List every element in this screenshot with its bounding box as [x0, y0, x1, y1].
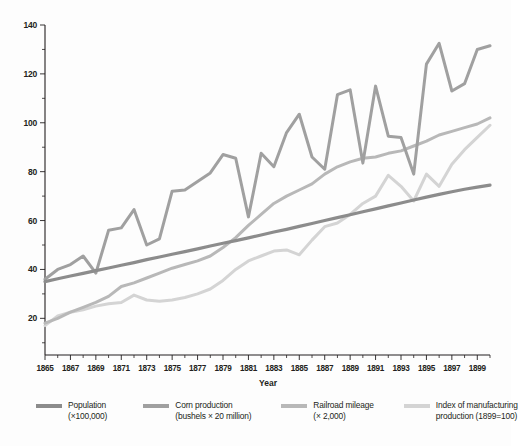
- x-tick-label: 1875: [164, 364, 182, 373]
- x-tick-label: 1887: [316, 364, 334, 373]
- x-tick-label: 1871: [113, 364, 131, 373]
- y-tick-label: 20: [28, 313, 38, 323]
- x-tick-label: 1891: [367, 364, 385, 373]
- y-tick-label: 80: [28, 167, 38, 177]
- y-tick-label: 40: [28, 264, 38, 274]
- y-tick-label: 100: [23, 118, 37, 128]
- x-tick-label: 1889: [342, 364, 360, 373]
- x-tick-label: 1895: [418, 364, 436, 373]
- series-line-corn-production: [45, 43, 490, 279]
- series-layer: [45, 43, 490, 325]
- x-tick-label: 1885: [291, 364, 309, 373]
- y-tick-label: 60: [28, 216, 38, 226]
- legend-item-railroad-mileage[interactable]: Railroad mileage (× 2,000): [281, 400, 373, 422]
- axes-layer: [40, 25, 490, 360]
- x-tick-label: 1877: [189, 364, 207, 373]
- x-axis-title: Year: [259, 378, 278, 388]
- x-tick-label: 1893: [392, 364, 410, 373]
- x-tick-label: 1873: [138, 364, 156, 373]
- legend-item-population[interactable]: Population (×100,000): [36, 400, 107, 422]
- series-line-railroad-mileage: [45, 118, 490, 323]
- x-tick-label: 1883: [265, 364, 283, 373]
- y-tick-label: 120: [23, 69, 37, 79]
- legend-label-population: Population (×100,000): [68, 400, 107, 422]
- x-tick-label: 1879: [214, 364, 232, 373]
- legend-item-corn-production[interactable]: Corn production (bushels × 20 million): [143, 400, 251, 422]
- y-tick-label: 140: [23, 20, 37, 30]
- chart-plot-area: 2040608010012014018651867186918711873187…: [0, 0, 511, 392]
- chart-legend: Population (×100,000) Corn production (b…: [0, 392, 511, 446]
- legend-label-railroad-mileage: Railroad mileage (× 2,000): [313, 400, 373, 422]
- x-tick-label: 1881: [240, 364, 258, 373]
- legend-swatch-population: [36, 404, 62, 408]
- line-chart: 2040608010012014018651867186918711873187…: [0, 0, 511, 392]
- legend-swatch-index-manufacturing: [404, 404, 430, 408]
- legend-item-index-manufacturing[interactable]: Index of manufacturing production (1899=…: [404, 400, 518, 422]
- x-tick-label: 1899: [469, 364, 487, 373]
- x-tick-label: 1865: [36, 364, 54, 373]
- x-tick-label: 1869: [87, 364, 105, 373]
- x-tick-label: 1897: [443, 364, 461, 373]
- legend-label-corn-production: Corn production (bushels × 20 million): [175, 400, 251, 422]
- x-tick-label: 1867: [62, 364, 80, 373]
- legend-label-index-manufacturing: Index of manufacturing production (1899=…: [436, 400, 518, 422]
- legend-swatch-corn-production: [143, 404, 169, 408]
- legend-swatch-railroad-mileage: [281, 404, 307, 408]
- series-line-population: [45, 185, 490, 282]
